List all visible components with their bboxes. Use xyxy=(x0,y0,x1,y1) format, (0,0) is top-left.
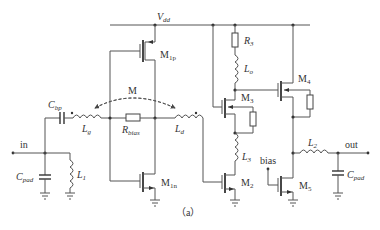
transistor-m1p xyxy=(110,25,155,118)
figure-caption: （a） xyxy=(176,207,200,218)
r3-label: R3 xyxy=(243,35,254,48)
transistor-m2 xyxy=(203,173,240,206)
lg-label: Lg xyxy=(81,123,92,136)
m1n-label: M1n xyxy=(161,177,177,190)
m1p-label: M1p xyxy=(160,49,176,62)
r3-l3-branch xyxy=(232,25,238,92)
input-port xyxy=(12,118,75,199)
m4-label: M4 xyxy=(298,73,311,86)
coupling-label: M xyxy=(128,85,137,96)
circuit-schematic: Vdd M1p M Cbp Lg Rbias Ld xyxy=(0,0,380,230)
cpad-out-label: Cpad xyxy=(347,169,365,182)
m2-label: M2 xyxy=(241,177,254,190)
in-label: in xyxy=(20,139,28,150)
lo-label: L2 xyxy=(307,137,318,150)
vdd-rail xyxy=(110,23,310,26)
m3-gate-wire xyxy=(213,25,222,107)
cpad-in-label: Cpad xyxy=(16,171,34,184)
l3-label: Lo xyxy=(243,63,254,76)
m5-label: M5 xyxy=(299,180,312,193)
m3-label: M3 xyxy=(241,92,254,105)
l1-label: L1 xyxy=(76,169,86,182)
ld-label: Ld xyxy=(174,123,185,136)
out-label: out xyxy=(345,139,358,150)
inductor-l2 xyxy=(235,133,238,175)
l2-label: L3 xyxy=(241,151,252,164)
vdd-label: Vdd xyxy=(157,11,171,24)
rbias-label: Rbias xyxy=(121,124,140,137)
bias-label: bias xyxy=(260,155,276,166)
cbp-label: Cbp xyxy=(48,99,62,112)
